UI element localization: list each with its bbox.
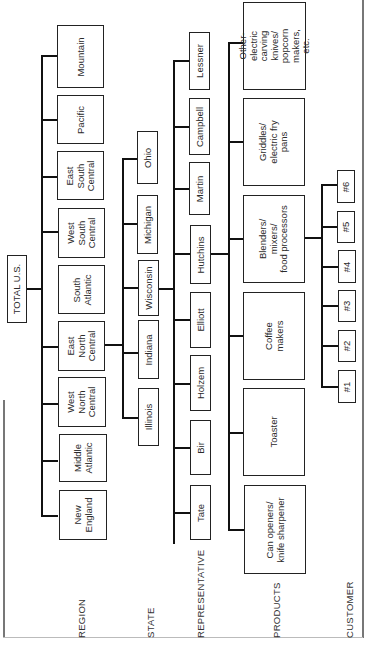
connector [41, 176, 58, 178]
connector [173, 319, 190, 321]
customer-label: #5 [341, 222, 352, 233]
connector [41, 460, 58, 462]
region-label: East North Central [66, 331, 98, 362]
connector [321, 386, 338, 388]
connector [321, 345, 338, 347]
connector [122, 352, 138, 354]
customer-label: #1 [342, 381, 353, 392]
representative-node-holzem: Holzem [190, 355, 211, 411]
region-node-middle-atlantic: Middle Atlantic [59, 434, 107, 482]
region-node-mountain: Mountain [57, 25, 104, 88]
region-label: Middle Atlantic [73, 442, 94, 473]
product-label: Other- electric carving knives/ popcorn … [238, 29, 312, 63]
region-node-west-north-central: West North Central [58, 377, 106, 427]
region-label: New England [73, 498, 94, 533]
representative-node-tate: Tate [190, 485, 211, 540]
connector [305, 237, 322, 239]
customer-node-3: #3 [338, 290, 356, 322]
region-node-west-south-central: West South Central [58, 208, 105, 258]
region-label: South Atlantic [71, 274, 92, 305]
representative-label: Bir [195, 442, 206, 454]
region-label: East South Central [65, 160, 97, 191]
connector [41, 55, 58, 57]
page-edge-right [362, 0, 364, 638]
level-label-customer: CUSTOMER [344, 581, 355, 638]
connector [173, 383, 190, 385]
state-label: Illinois [143, 404, 154, 430]
product-node-can-openers: Can openers/ knife sharpener [244, 485, 306, 574]
level-label-region: REGION [76, 599, 87, 638]
connector [228, 238, 244, 240]
state-node-illinois: Illinois [138, 388, 159, 446]
representative-label: Campbell [194, 106, 205, 146]
connector [41, 119, 58, 121]
connector [41, 515, 58, 517]
customer-label: #4 [342, 261, 353, 272]
connector [173, 512, 190, 514]
representative-node-hutchins: Hutchins [190, 225, 211, 284]
customer-node-4: #4 [338, 250, 356, 283]
connector [173, 447, 190, 449]
product-label: Coffee makers [264, 320, 285, 351]
representative-node-campbell: Campbell [189, 98, 210, 155]
connector [122, 287, 138, 289]
state-node-wisconsin: Wisconsin [138, 260, 159, 316]
customer-node-2: #2 [338, 330, 356, 362]
product-node-coffee-makers: Coffee makers [243, 292, 305, 380]
representative-node-bir: Bir [190, 420, 211, 475]
representative-label: Tate [195, 504, 206, 522]
region-node-new-england: New England [59, 490, 107, 540]
page-edge-bottom [3, 637, 363, 638]
state-label: Michigan [142, 205, 153, 243]
customer-label: #6 [341, 181, 352, 192]
representative-spine [173, 60, 175, 544]
product-node-griddles: Griddles/ electric fry pans [243, 98, 305, 186]
product-label: Toaster [269, 416, 280, 447]
product-label: Can openers/ knife sharpener [265, 497, 286, 562]
connector [41, 346, 58, 348]
customer-node-1: #1 [338, 370, 356, 403]
connector [228, 335, 244, 337]
region-node-east-north-central: East North Central [58, 321, 105, 371]
customer-node-6: #6 [337, 170, 355, 203]
customer-label: #3 [342, 301, 353, 312]
product-node-blenders: Blenders/ mixers/ food processors [243, 195, 305, 283]
connector [321, 184, 338, 186]
connector [41, 231, 58, 233]
level-label-products: PRODUCTS [271, 582, 282, 638]
representative-node-elliott: Elliott [190, 292, 211, 348]
connector [228, 141, 244, 143]
region-node-south-atlantic: South Atlantic [58, 265, 105, 314]
connector [321, 226, 338, 228]
connector [228, 529, 244, 531]
region-node-pacific: Pacific [57, 95, 104, 144]
representative-node-martin: Martin [189, 162, 210, 215]
connector [173, 126, 190, 128]
representative-node-lessner: Lessner [189, 32, 210, 90]
level-label-state: STATE [145, 607, 156, 638]
product-node-toaster: Toaster [243, 388, 305, 476]
root-node-total-us: TOTAL U.S. [7, 255, 27, 323]
state-label: Wisconsin [143, 266, 154, 309]
state-node-indiana: Indiana [138, 320, 159, 379]
connector [41, 403, 58, 405]
products-spine [228, 42, 230, 531]
connector [173, 188, 190, 190]
connector [122, 158, 138, 160]
region-label: Mountain [75, 37, 86, 76]
representative-label: Hutchins [195, 236, 206, 273]
connector [228, 432, 244, 434]
root-node-label: TOTAL U.S. [12, 264, 23, 315]
page-edge-left [3, 400, 5, 638]
region-label: Pacific [75, 106, 86, 134]
region-spine [41, 55, 43, 517]
region-label: West South Central [66, 218, 98, 249]
product-node-other-electric: Other- electric carving knives/ popcorn … [243, 2, 306, 90]
connector [173, 60, 190, 62]
representative-label: Elliott [195, 308, 206, 331]
customer-node-5: #5 [337, 211, 355, 243]
state-label: Indiana [143, 334, 154, 365]
representative-label: Holzem [195, 367, 206, 399]
region-node-east-south-central: East South Central [57, 151, 104, 200]
customer-spine [321, 184, 323, 388]
